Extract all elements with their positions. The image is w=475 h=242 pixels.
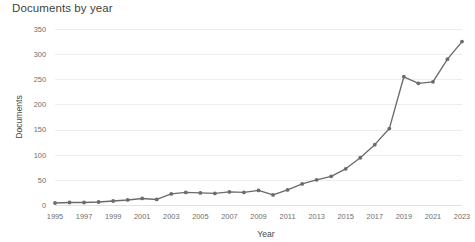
x-axis-tick-label: 2003 bbox=[163, 212, 179, 221]
data-point-marker bbox=[213, 192, 217, 196]
data-point-marker bbox=[111, 199, 115, 203]
y-axis-tick-label: 0 bbox=[42, 201, 46, 210]
data-point-marker bbox=[402, 75, 406, 79]
data-point-marker bbox=[198, 191, 202, 195]
data-point-marker bbox=[358, 156, 362, 160]
data-point-marker bbox=[416, 81, 420, 85]
data-point-marker bbox=[286, 188, 290, 192]
data-point-marker bbox=[82, 201, 86, 205]
data-point-marker bbox=[140, 197, 144, 201]
x-axis-tick-label: 2019 bbox=[396, 212, 412, 221]
data-point-marker bbox=[300, 182, 304, 186]
data-point-marker bbox=[271, 193, 275, 197]
x-axis-tick-label: 2023 bbox=[454, 212, 470, 221]
y-axis-title: Documents bbox=[14, 95, 24, 138]
chart-container: Documents by year 050100150200250300350 … bbox=[0, 0, 475, 242]
x-axis-title: Year bbox=[257, 229, 275, 239]
series-line bbox=[55, 42, 462, 203]
x-axis-tick-label: 1997 bbox=[76, 212, 92, 221]
x-axis-tick-label: 2017 bbox=[367, 212, 383, 221]
gridlines bbox=[55, 30, 462, 206]
data-point-marker bbox=[315, 178, 319, 182]
line-chart-plot: 050100150200250300350 199519971999200120… bbox=[0, 0, 475, 242]
data-point-marker bbox=[431, 80, 435, 84]
x-axis-tick-label: 2021 bbox=[425, 212, 441, 221]
data-point-marker bbox=[228, 190, 232, 194]
x-axis-tick-label: 2013 bbox=[308, 212, 324, 221]
x-axis-tick-label: 2011 bbox=[280, 212, 296, 221]
x-axis-tick-label: 2001 bbox=[134, 212, 150, 221]
y-axis-tick-label: 50 bbox=[38, 176, 46, 185]
y-axis-tick-label: 250 bbox=[34, 75, 46, 84]
data-point-marker bbox=[460, 40, 464, 44]
y-axis-tick-label: 200 bbox=[34, 100, 46, 109]
x-axis-tick-labels: 1995199719992001200320052007200920112013… bbox=[47, 212, 470, 221]
data-point-marker bbox=[329, 174, 333, 178]
y-axis-tick-label: 150 bbox=[34, 125, 46, 134]
y-axis-tick-labels: 050100150200250300350 bbox=[34, 25, 46, 210]
data-point-marker bbox=[257, 189, 261, 193]
y-axis-tick-label: 300 bbox=[34, 50, 46, 59]
data-point-marker bbox=[169, 192, 173, 196]
data-point-marker bbox=[155, 198, 159, 202]
x-axis-tick-label: 1999 bbox=[105, 212, 121, 221]
data-point-marker bbox=[344, 167, 348, 171]
x-axis-tick-label: 2009 bbox=[250, 212, 266, 221]
y-axis-tick-label: 350 bbox=[34, 25, 46, 34]
data-point-marker bbox=[446, 57, 450, 61]
data-point-marker bbox=[242, 191, 246, 195]
data-point-marker bbox=[387, 127, 391, 131]
data-point-marker bbox=[68, 201, 72, 205]
data-point-marker bbox=[97, 200, 101, 204]
y-axis-tick-label: 100 bbox=[34, 151, 46, 160]
data-point-marker bbox=[126, 198, 130, 202]
x-axis-tick-label: 1995 bbox=[47, 212, 63, 221]
x-axis-tick-label: 2007 bbox=[221, 212, 237, 221]
data-point-marker bbox=[53, 201, 57, 205]
data-point-marker bbox=[373, 143, 377, 147]
x-axis-tick-label: 2015 bbox=[337, 212, 353, 221]
data-point-marker bbox=[184, 191, 188, 195]
x-axis-tick-label: 2005 bbox=[192, 212, 208, 221]
